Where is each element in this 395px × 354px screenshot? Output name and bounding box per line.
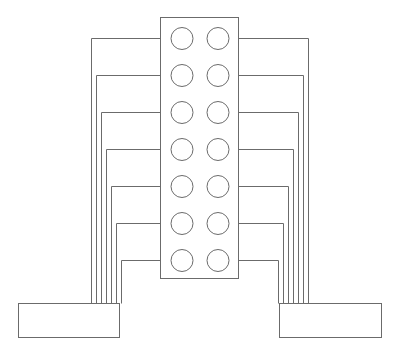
right-terminal-box	[280, 304, 382, 338]
pin-right-5	[207, 176, 229, 198]
pin-left-4	[171, 139, 193, 161]
wire-left-1	[92, 39, 172, 304]
wire-left-2	[97, 76, 172, 304]
right-wire-group	[229, 39, 309, 304]
pin-right-4	[207, 139, 229, 161]
pin-left-7	[171, 250, 193, 272]
pin-left-3	[171, 102, 193, 124]
pin-left-5	[171, 176, 193, 198]
pin-left-1	[171, 28, 193, 50]
pin-right-1	[207, 28, 229, 50]
pin-right-7	[207, 250, 229, 272]
wiring-diagram	[0, 0, 395, 354]
left-wire-group	[92, 39, 172, 304]
pin-right-6	[207, 213, 229, 235]
left-terminal-box	[19, 304, 120, 338]
pin-right-2	[207, 65, 229, 87]
pin-left-6	[171, 213, 193, 235]
pin-left-2	[171, 65, 193, 87]
wire-right-2	[229, 76, 304, 304]
pin-right-3	[207, 102, 229, 124]
wire-right-1	[229, 39, 309, 304]
